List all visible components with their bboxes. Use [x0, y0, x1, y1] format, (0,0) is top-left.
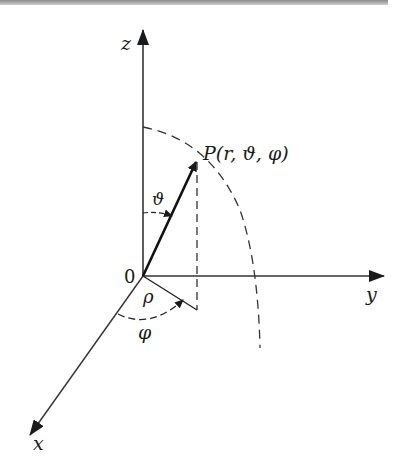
r-vector: [143, 162, 196, 276]
x-axis: [30, 276, 143, 435]
diagram-svg: z y x 0 P(r, ϑ, φ) ϑ ρ φ: [0, 0, 401, 471]
point-p-label: P(r, ϑ, φ): [202, 142, 289, 164]
origin-label: 0: [124, 266, 135, 287]
x-axis-label: x: [33, 432, 44, 454]
spherical-coordinates-diagram: z y x 0 P(r, ϑ, φ) ϑ ρ φ: [0, 0, 401, 471]
theta-arc: [143, 212, 172, 216]
y-axis-label: y: [365, 283, 377, 305]
z-axis-label: z: [120, 32, 132, 54]
theta-label: ϑ: [152, 189, 164, 209]
phi-label: φ: [138, 321, 152, 343]
rho-label: ρ: [142, 286, 154, 307]
